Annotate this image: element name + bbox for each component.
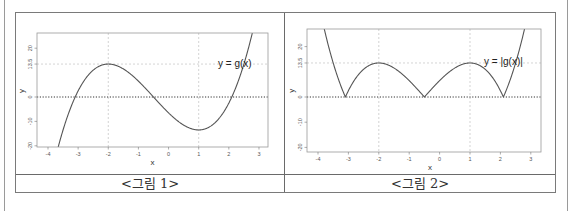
x-tick-label: 2 bbox=[499, 156, 502, 162]
function-curve bbox=[37, 0, 268, 211]
y-axis-title: y bbox=[287, 89, 296, 93]
x-tick-label: 3 bbox=[257, 151, 260, 157]
y-tick-label: 0 bbox=[297, 95, 303, 98]
plot-figure-1-g: -4-3-2-10123-20-10013.520xyy = g(x) bbox=[17, 0, 268, 211]
y-tick-label: -20 bbox=[297, 143, 303, 151]
x-tick-label: 1 bbox=[197, 151, 200, 157]
x-tick-label: -1 bbox=[407, 156, 412, 162]
x-tick-label: 2 bbox=[227, 151, 230, 157]
x-tick-label: 1 bbox=[468, 156, 471, 162]
curve-annotation: y = g(x) bbox=[218, 58, 252, 69]
function-curve bbox=[307, 0, 540, 97]
y-tick-label: 13.5 bbox=[297, 58, 303, 69]
x-tick-label: 3 bbox=[529, 156, 532, 162]
x-axis-title: x bbox=[151, 158, 155, 167]
y-tick-label: 13.5 bbox=[27, 59, 33, 70]
y-tick-label: 20 bbox=[27, 45, 33, 51]
plot-figure-2-abs-g: -4-3-2-10123-20-10013.520xyy = |g(x)| bbox=[287, 0, 541, 172]
y-tick-label: -10 bbox=[27, 117, 33, 125]
plot-frame bbox=[37, 33, 268, 147]
curve-annotation: y = |g(x)| bbox=[484, 56, 523, 67]
y-tick-label: -10 bbox=[297, 118, 303, 126]
x-tick-label: 0 bbox=[167, 151, 170, 157]
y-tick-label: -20 bbox=[27, 142, 33, 150]
y-tick-label: 20 bbox=[297, 44, 303, 50]
x-tick-label: -3 bbox=[76, 151, 81, 157]
x-tick-label: -2 bbox=[376, 156, 381, 162]
x-tick-label: -4 bbox=[316, 156, 321, 162]
x-tick-label: -3 bbox=[346, 156, 351, 162]
x-tick-label: -4 bbox=[46, 151, 51, 157]
x-axis-title: x bbox=[428, 163, 432, 172]
y-tick-label: 0 bbox=[27, 95, 33, 98]
y-axis-title: y bbox=[17, 89, 26, 93]
x-tick-label: -2 bbox=[106, 151, 111, 157]
plots-canvas: -4-3-2-10123-20-10013.520xyy = g(x) -4-3… bbox=[0, 0, 570, 211]
x-tick-label: 0 bbox=[438, 156, 441, 162]
x-tick-label: -1 bbox=[136, 151, 141, 157]
